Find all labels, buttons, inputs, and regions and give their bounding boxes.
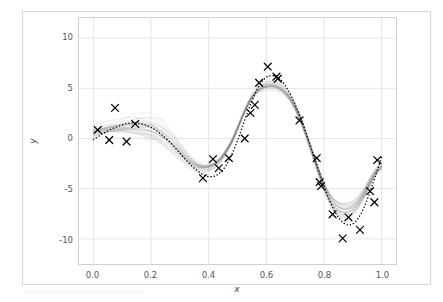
chart-data-layer xyxy=(79,18,396,264)
figure-canvas: 1050-5-10 0.00.20.40.60.81.0 x y xyxy=(0,0,443,302)
x-tick-label: 0.2 xyxy=(144,270,158,280)
plot-axes-area xyxy=(78,17,397,265)
y-tick-label: 10 xyxy=(48,32,73,42)
x-tick-label: 0.4 xyxy=(202,270,216,280)
x-tick-label: 0.8 xyxy=(318,270,332,280)
y-tick-label: -10 xyxy=(48,235,73,245)
y-tick-label: 5 xyxy=(48,83,73,93)
x-tick-label: 0.0 xyxy=(86,270,100,280)
y-axis-title: y xyxy=(28,138,38,143)
y-tick-label: 0 xyxy=(48,133,73,143)
plot-container: 1050-5-10 0.00.20.40.60.81.0 x y xyxy=(0,0,443,302)
bottom-edge-artifact xyxy=(24,292,144,293)
x-axis-title: x xyxy=(234,284,239,294)
x-tick-label: 0.6 xyxy=(260,270,274,280)
x-tick-label: 1.0 xyxy=(376,270,390,280)
y-tick-label: -5 xyxy=(48,184,73,194)
